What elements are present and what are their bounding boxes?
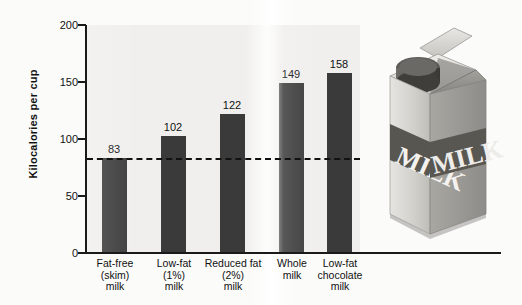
- reference-line-83: [87, 158, 360, 160]
- y-tick-label-100: 100: [46, 133, 78, 145]
- y-tick-group-50: 50: [0, 190, 78, 202]
- chart-figure: Kilocalories per cup 200 150 100 50 0 83…: [0, 0, 522, 305]
- y-tick-group-0: 0: [0, 247, 78, 259]
- y-tick-label-200: 200: [46, 19, 78, 31]
- y-tick-group-100: 100: [0, 133, 78, 145]
- carton-top-fin: [420, 28, 472, 58]
- y-tick-label-0: 0: [46, 247, 78, 259]
- scan-glare-overlay: [87, 25, 360, 252]
- x-axis-category-labels: Fat-free (skim) milk Low-fat (1%) milk R…: [87, 258, 367, 304]
- x-label-line: milk: [303, 281, 377, 293]
- y-tick-group-150: 150: [0, 76, 78, 88]
- x-label-low-fat-chocolate-milk: Low-fat chocolate milk: [303, 258, 377, 293]
- y-tick-group-200: 200: [0, 19, 78, 31]
- y-tick-label-150: 150: [46, 76, 78, 88]
- y-tick-label-50: 50: [46, 190, 78, 202]
- y-axis-line: [85, 25, 87, 254]
- x-label-line: milk: [196, 281, 270, 293]
- x-label-line: Low-fat: [303, 258, 377, 270]
- milk-carton-illustration: MILK MILK: [368, 18, 518, 258]
